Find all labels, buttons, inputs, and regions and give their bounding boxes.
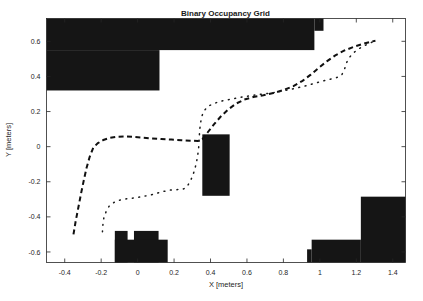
occupied-region bbox=[47, 19, 315, 51]
y-tick-label: 0.4 bbox=[31, 73, 41, 80]
occupied-region bbox=[202, 134, 229, 195]
x-tick-label: 0.8 bbox=[279, 269, 289, 276]
occupied-region bbox=[47, 50, 160, 90]
x-tick-label: 1.4 bbox=[388, 269, 398, 276]
x-tick-label: 0 bbox=[136, 269, 140, 276]
y-tick-label: -0.6 bbox=[28, 249, 40, 256]
x-tick-label: 0.4 bbox=[206, 269, 216, 276]
y-axis-label: Y [meters] bbox=[4, 123, 13, 157]
occupancy-grid-plot: Binary Occupancy Grid -0.4-0.200.20.40.6… bbox=[0, 0, 423, 301]
x-tick-label: 1.2 bbox=[351, 269, 361, 276]
occupied-region bbox=[307, 249, 312, 262]
x-tick-label: -0.4 bbox=[59, 269, 71, 276]
x-tick-label: 0.2 bbox=[169, 269, 179, 276]
x-tick-label: 1 bbox=[318, 269, 322, 276]
y-tick-label: 0.2 bbox=[31, 108, 41, 115]
y-tick-label: -0.4 bbox=[28, 213, 40, 220]
occupied-region bbox=[314, 19, 323, 31]
y-tick-label: 0.6 bbox=[31, 38, 41, 45]
occupied-region bbox=[312, 240, 361, 263]
figure-container: Binary Occupancy Grid -0.4-0.200.20.40.6… bbox=[0, 0, 423, 301]
x-axis-label: X [meters] bbox=[209, 280, 243, 289]
y-tick-label: 0 bbox=[37, 143, 41, 150]
occupied-region bbox=[115, 240, 168, 263]
y-tick-label: -0.2 bbox=[28, 178, 40, 185]
occupied-region bbox=[361, 197, 406, 263]
x-tick-label: 0.6 bbox=[242, 269, 252, 276]
x-tick-label: -0.2 bbox=[95, 269, 107, 276]
page-title: Binary Occupancy Grid bbox=[181, 9, 270, 18]
